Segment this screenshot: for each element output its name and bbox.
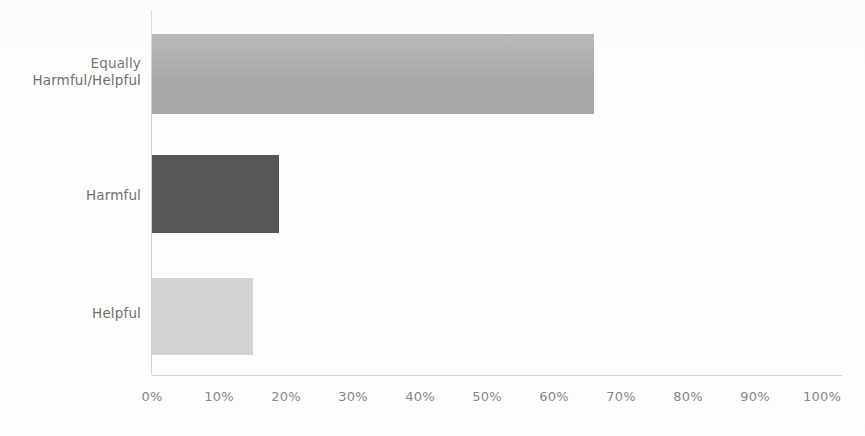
- category-label-line1: Harmful: [0, 187, 141, 204]
- x-tick-label: 80%: [673, 389, 703, 404]
- x-tick-label: 30%: [338, 389, 368, 404]
- bar-equally-harmful-helpful: [152, 34, 594, 114]
- x-axis-line: [152, 375, 842, 376]
- x-tick-label: 90%: [740, 389, 770, 404]
- category-label-line1: Helpful: [0, 305, 141, 322]
- x-tick-label: 40%: [405, 389, 435, 404]
- category-label-line2: Harmful/Helpful: [0, 72, 141, 89]
- category-label-line1: Equally: [0, 55, 141, 72]
- category-label-equally-harmful-helpful: Equally Harmful/Helpful: [0, 55, 141, 88]
- x-tick-label: 0%: [141, 389, 162, 404]
- bar-helpful: [152, 278, 253, 355]
- bar-chart: Equally Harmful/Helpful Harmful Helpful …: [0, 0, 865, 436]
- x-tick-label: 60%: [539, 389, 569, 404]
- x-tick-label: 70%: [606, 389, 636, 404]
- x-tick-label: 100%: [803, 389, 841, 404]
- x-tick-label: 10%: [204, 389, 234, 404]
- x-tick-label: 20%: [271, 389, 301, 404]
- x-tick-label: 50%: [472, 389, 502, 404]
- plot-area: [152, 10, 822, 375]
- bar-harmful: [152, 155, 279, 233]
- category-label-harmful: Harmful: [0, 187, 141, 204]
- category-label-helpful: Helpful: [0, 305, 141, 322]
